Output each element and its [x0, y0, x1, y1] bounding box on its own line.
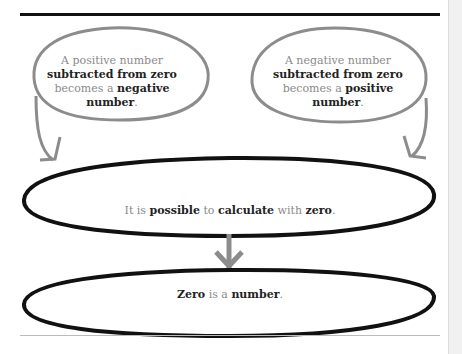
text-plain: A positive number: [61, 54, 163, 67]
right-bubble-text: A negative number subtracted from zero b…: [268, 54, 408, 110]
bottom-rule: [20, 335, 440, 336]
text-plain: with: [274, 204, 305, 217]
text-bold: possible: [149, 204, 199, 217]
text-bold: negative: [117, 82, 169, 95]
left-bubble-text: A positive number subtracted from zero b…: [42, 54, 182, 110]
text-plain: becomes a: [283, 82, 345, 95]
text-bold: subtracted from zero: [47, 68, 177, 81]
text-plain: to: [200, 204, 218, 217]
page-edge: [448, 0, 462, 354]
document-page: A positive number subtracted from zero b…: [0, 0, 448, 354]
middle-ellipse-text: It is possible to calculate with zero.: [40, 204, 420, 218]
text-plain: .: [134, 96, 138, 109]
text-bold: number: [231, 288, 279, 301]
text-plain: .: [332, 204, 336, 217]
text-plain: becomes a: [55, 82, 117, 95]
text-bold: positive: [345, 82, 393, 95]
text-plain: .: [360, 96, 364, 109]
bottom-ellipse-text: Zero is a number.: [40, 288, 420, 302]
middle-ellipse-shape: [24, 158, 434, 236]
text-bold: calculate: [218, 204, 274, 217]
text-plain: It is: [125, 204, 150, 217]
down-arrow-icon: [216, 234, 242, 268]
text-bold: number: [312, 96, 360, 109]
text-plain: is a: [205, 288, 231, 301]
text-bold: number: [86, 96, 134, 109]
text-plain: A negative number: [285, 54, 391, 67]
bottom-ellipse-shape: [24, 270, 434, 336]
text-bold: subtracted from zero: [273, 68, 403, 81]
text-bold: Zero: [177, 288, 205, 301]
text-plain: .: [280, 288, 284, 301]
text-bold: zero: [306, 204, 332, 217]
